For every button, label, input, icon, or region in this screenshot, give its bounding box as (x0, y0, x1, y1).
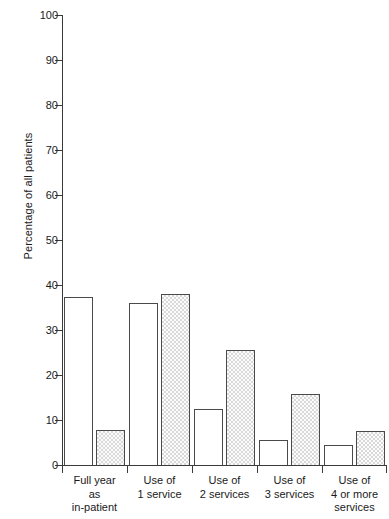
y-tick-label: 30 (46, 324, 58, 336)
x-group-label-3: Use of2 services (192, 474, 257, 501)
x-tick-mark (386, 466, 387, 473)
bar-open-3 (194, 409, 223, 465)
x-group-label-line: in-patient (62, 501, 127, 515)
x-group-label-2: Use of1 service (127, 474, 192, 501)
bar-hatched-3 (226, 350, 255, 465)
bar-open-4 (259, 440, 288, 465)
x-group-label-5: Use of4 or moreservices (322, 474, 387, 515)
x-group-label-line: Full year (62, 474, 127, 488)
plot-area (62, 15, 387, 465)
bar-open-1 (64, 297, 93, 465)
x-group-label-line: 4 or more (322, 488, 387, 502)
x-tick-mark (127, 466, 128, 473)
bar-hatched-4 (291, 394, 320, 465)
y-tick-label: 90 (46, 54, 58, 66)
x-group-label-line: services (322, 501, 387, 515)
x-group-label-line: Use of (192, 474, 257, 488)
y-tick-label: 80 (46, 99, 58, 111)
x-group-label-line: 2 services (192, 488, 257, 502)
y-tick-label: 60 (46, 189, 58, 201)
y-tick-label: 20 (46, 369, 58, 381)
y-axis-title: Percentage of all patients (22, 86, 34, 306)
y-tick-label: 50 (46, 234, 58, 246)
bar-hatched-2 (161, 294, 190, 465)
x-tick-mark (257, 466, 258, 473)
bar-chart: Percentage of all patients 0102030405060… (0, 0, 389, 519)
y-tick-label: 40 (46, 279, 58, 291)
y-tick-label: 10 (46, 414, 58, 426)
x-tick-mark (322, 466, 323, 473)
x-tick-mark (192, 466, 193, 473)
x-group-label-line: as (62, 488, 127, 502)
x-group-label-1: Full yearasin-patient (62, 474, 127, 515)
x-tick-mark (62, 466, 63, 473)
bar-open-5 (324, 445, 353, 465)
x-group-label-line: Use of (127, 474, 192, 488)
y-tick-label: 0 (52, 459, 58, 471)
x-group-label-line: Use of (257, 474, 322, 488)
y-tick-label: 70 (46, 144, 58, 156)
x-group-label-line: 1 service (127, 488, 192, 502)
bar-hatched-1 (96, 430, 125, 465)
x-group-label-line: Use of (322, 474, 387, 488)
x-group-label-4: Use of3 services (257, 474, 322, 501)
bar-hatched-5 (356, 431, 385, 465)
bar-open-2 (129, 303, 158, 465)
x-group-label-line: 3 services (257, 488, 322, 502)
x-axis-line (62, 465, 387, 466)
y-tick-label: 100 (40, 9, 58, 21)
